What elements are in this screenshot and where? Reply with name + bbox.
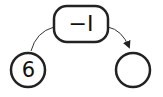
operation-label: −I <box>54 6 108 42</box>
input-connector-arc <box>31 27 54 51</box>
output-value[interactable] <box>115 52 152 89</box>
output-arrow-arc <box>108 27 129 47</box>
input-value: 6 <box>10 52 47 89</box>
